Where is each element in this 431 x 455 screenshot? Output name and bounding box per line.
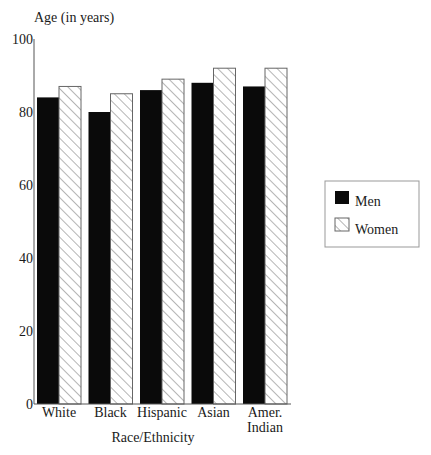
bar-women-hispanic bbox=[162, 79, 184, 404]
bar-men-black bbox=[89, 112, 111, 404]
x-tick-label: Indian bbox=[247, 420, 283, 435]
x-tick-label: Hispanic bbox=[137, 405, 187, 420]
legend-women-label: Women bbox=[355, 222, 398, 237]
bar-men-asian bbox=[192, 83, 214, 404]
legend: Men Women bbox=[325, 181, 419, 247]
legend-men-swatch-icon bbox=[335, 191, 349, 204]
y-tick-label: 40 bbox=[19, 251, 33, 266]
bar-women-asian bbox=[214, 68, 236, 404]
bar-women-amer-indian bbox=[265, 68, 287, 404]
bars-group bbox=[37, 68, 287, 404]
y-axis-title: Age (in years) bbox=[34, 10, 114, 26]
x-axis-title: Race/Ethnicity bbox=[111, 430, 194, 445]
y-tick-label: 0 bbox=[26, 397, 33, 412]
x-tick-label: White bbox=[42, 405, 76, 420]
legend-women-swatch-icon bbox=[335, 218, 349, 231]
x-tick-label: Black bbox=[94, 405, 127, 420]
y-tick-label: 100 bbox=[12, 32, 33, 47]
legend-men-label: Men bbox=[355, 194, 381, 209]
bar-women-white bbox=[59, 86, 81, 404]
y-tick-label: 60 bbox=[19, 178, 33, 193]
bar-women-black bbox=[111, 94, 133, 404]
y-axis-ticks: 020406080100 bbox=[12, 32, 33, 412]
bar-men-hispanic bbox=[140, 90, 162, 404]
x-tick-label: Asian bbox=[197, 405, 230, 420]
y-tick-label: 20 bbox=[19, 324, 33, 339]
bar-men-amer-indian bbox=[243, 86, 265, 404]
bar-chart: Age (in years) 020406080100 WhiteBlackHi… bbox=[0, 0, 431, 455]
legend-box bbox=[325, 181, 419, 247]
x-tick-label: Amer. bbox=[248, 405, 283, 420]
bar-men-white bbox=[37, 97, 59, 404]
y-tick-label: 80 bbox=[19, 105, 33, 120]
